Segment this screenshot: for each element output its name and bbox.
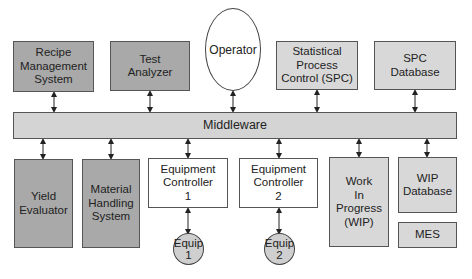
equipment-controller-1-label: Equipment Controller 1 bbox=[161, 163, 216, 204]
work-in-progress-box: Work In Progress (WIP) bbox=[329, 157, 389, 247]
spc-database-label: SPC Database bbox=[390, 52, 439, 79]
work-in-progress-label: Work In Progress (WIP) bbox=[336, 175, 382, 229]
equip-1-label: Equip 1 bbox=[174, 237, 203, 262]
spc-box: Statistical Process Control (SPC) bbox=[276, 41, 358, 90]
equip-2-label: Equip 2 bbox=[265, 237, 294, 262]
equip-2-circle: Equip 2 bbox=[264, 233, 295, 265]
spc-database-box: SPC Database bbox=[374, 41, 456, 90]
equipment-controller-1-box: Equipment Controller 1 bbox=[148, 158, 228, 208]
middleware-bar: Middleware bbox=[13, 112, 457, 139]
operator-ellipse: Operator bbox=[205, 8, 261, 91]
mes-box: MES bbox=[398, 222, 457, 248]
middleware-label: Middleware bbox=[203, 119, 267, 133]
equipment-controller-2-box: Equipment Controller 2 bbox=[239, 158, 318, 208]
wip-database-box: WIP Database bbox=[398, 157, 457, 213]
material-handling-system-box: Material Handling System bbox=[82, 159, 140, 248]
equipment-controller-2-label: Equipment Controller 2 bbox=[251, 163, 306, 204]
spc-label: Statistical Process Control (SPC) bbox=[281, 45, 353, 86]
recipe-management-system-label: Recipe Management System bbox=[20, 46, 87, 87]
equip-1-circle: Equip 1 bbox=[173, 233, 204, 265]
mes-label: MES bbox=[415, 228, 440, 242]
test-analyzer-label: Test Analyzer bbox=[128, 53, 173, 80]
test-analyzer-box: Test Analyzer bbox=[110, 41, 190, 91]
wip-database-label: WIP Database bbox=[403, 172, 452, 199]
material-handling-system-label: Material Handling System bbox=[88, 183, 133, 224]
recipe-management-system-box: Recipe Management System bbox=[13, 41, 94, 92]
yield-evaluator-box: Yield Evaluator bbox=[14, 159, 73, 248]
yield-evaluator-label: Yield Evaluator bbox=[19, 190, 68, 217]
operator-label: Operator bbox=[209, 43, 256, 57]
